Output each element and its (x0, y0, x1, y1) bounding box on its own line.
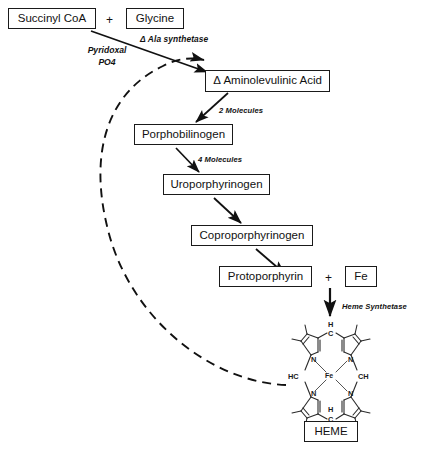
atom-meso-bottom-c: C (328, 415, 333, 424)
node-porphobilinogen-label: Porphobilinogen (142, 129, 225, 141)
node-succinyl-coa-label: Succinyl CoA (18, 13, 86, 25)
node-porphobilinogen[interactable]: Porphobilinogen (134, 124, 233, 145)
node-coproporphyrinogen-label: Coproporphyrinogen (200, 230, 305, 242)
label-heme-synthetase: Heme Synthetase (342, 302, 407, 311)
atom-meso-left-hc: HC (288, 372, 299, 381)
node-uroporphyrinogen-label: Uroporphyrinogen (170, 179, 262, 191)
node-protoporphyrin[interactable]: Protoporphyrin (219, 266, 312, 287)
atom-meso-right-ch: CH (358, 372, 369, 381)
label-ala-synthetase: Δ Ala synthetase (140, 34, 208, 44)
node-aminolevulinic-acid[interactable]: Δ Aminolevulinic Acid (205, 70, 330, 92)
atom-nitrogen-top-left: N (311, 355, 316, 364)
atom-nitrogen-bottom-right: N (348, 389, 353, 398)
label-po4: PO4 (98, 57, 115, 67)
heme-biosynthesis-diagram: Succinyl CoA + Glycine Δ Aminolevulinic … (0, 0, 423, 451)
node-fe[interactable]: Fe (345, 266, 377, 287)
label-four-molecules: 4 Molecules (198, 155, 242, 164)
node-succinyl-coa[interactable]: Succinyl CoA (8, 8, 96, 29)
node-uroporphyrinogen[interactable]: Uroporphyrinogen (163, 174, 270, 195)
label-pyridoxal-po4: Pyridoxal PO4 (75, 44, 139, 68)
atom-iron-center: Fe (325, 372, 333, 379)
atom-nitrogen-bottom-left: N (311, 389, 316, 398)
node-heme-label: HEME (314, 426, 347, 438)
node-heme[interactable]: HEME (304, 421, 358, 442)
node-aminolevulinic-acid-label: Δ Aminolevulinic Acid (213, 75, 322, 87)
atom-nitrogen-top-right: N (348, 355, 353, 364)
arrow-uroporphyrinogen-to-coproporphyrinogen (214, 198, 241, 223)
label-pyridoxal: Pyridoxal (88, 45, 127, 55)
plus-operator-top: + (106, 13, 113, 27)
atom-meso-top-h: H (328, 320, 333, 329)
node-fe-label: Fe (354, 271, 367, 283)
node-coproporphyrinogen[interactable]: Coproporphyrinogen (191, 225, 313, 246)
label-two-molecules: 2 Molecules (219, 106, 263, 115)
node-glycine[interactable]: Glycine (126, 8, 184, 29)
atom-meso-bottom-h: H (328, 405, 333, 414)
atom-meso-top-c: C (328, 329, 333, 338)
arrow-porphobilinogen-to-uroporphyrinogen (176, 148, 199, 172)
plus-operator-bottom: + (325, 271, 332, 285)
node-glycine-label: Glycine (136, 13, 174, 25)
node-protoporphyrin-label: Protoporphyrin (228, 271, 303, 283)
